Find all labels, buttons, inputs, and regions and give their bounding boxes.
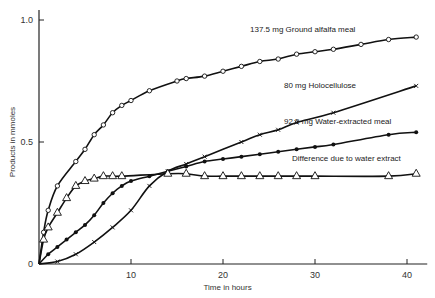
y-axis-label: Products in mmoles (8, 107, 17, 177)
x-marker (92, 240, 96, 244)
filled-circle-marker (258, 152, 262, 156)
series-x (39, 84, 418, 264)
open-circle-marker (129, 98, 133, 102)
filled-circle-marker (331, 142, 335, 146)
filled-circle-marker (276, 150, 280, 154)
filled-circle-marker (101, 201, 105, 205)
series-line (39, 132, 416, 264)
open-circle-marker (414, 35, 418, 39)
series-label: 137.5 mg Ground alfalfa meal (250, 25, 356, 34)
y-tick-label: 0.5 (20, 137, 33, 147)
filled-circle-marker (129, 179, 133, 183)
series-open-triangle (39, 169, 420, 264)
triangle-marker (99, 172, 107, 179)
filled-circle-marker (414, 130, 418, 134)
open-circle-marker (147, 89, 151, 93)
x-axis-label: Time in hours (204, 283, 252, 292)
filled-circle-marker (120, 184, 124, 188)
open-circle-marker (120, 103, 124, 107)
series-label: 80 mg Holocellulose (284, 81, 357, 90)
filled-circle-marker (65, 238, 69, 242)
series-line (39, 173, 416, 264)
filled-circle-marker (184, 164, 188, 168)
filled-circle-marker (92, 213, 96, 217)
filled-circle-marker (55, 245, 59, 249)
y-tick-label: 1.0 (20, 15, 33, 25)
open-circle-marker (294, 52, 298, 56)
triangle-marker (412, 169, 420, 176)
x-marker (147, 184, 151, 188)
series-line (39, 37, 416, 264)
x-tick-label: 30 (310, 270, 320, 280)
triangle-marker (118, 172, 126, 179)
open-circle-marker (276, 57, 280, 61)
filled-circle-marker (313, 145, 317, 149)
x-tick-label: 10 (126, 270, 136, 280)
triangle-marker (293, 172, 301, 179)
triangle-marker (274, 172, 282, 179)
x-tick-label: 20 (218, 270, 228, 280)
triangle-marker (40, 235, 48, 242)
filled-circle-marker (203, 160, 207, 164)
series-group (39, 35, 420, 264)
open-circle-marker (101, 123, 105, 127)
line-chart: 1020304000.51.0Time in hoursProducts in … (0, 0, 435, 298)
open-circle-marker (313, 50, 317, 54)
y-tick-label: 0 (28, 259, 33, 269)
open-circle-marker (83, 147, 87, 151)
series-labels: 137.5 mg Ground alfalfa meal80 mg Holoce… (250, 25, 402, 163)
open-circle-marker (184, 76, 188, 80)
open-circle-marker (386, 37, 390, 41)
series-line (39, 86, 416, 264)
filled-circle-marker (111, 191, 115, 195)
series-label: 92.5 mg Water-extracted meal (284, 117, 392, 126)
triangle-marker (256, 172, 264, 179)
filled-circle-marker (74, 230, 78, 234)
open-circle-marker (221, 69, 225, 73)
filled-circle-marker (221, 157, 225, 161)
open-circle-marker (331, 47, 335, 51)
filled-circle-marker (295, 147, 299, 151)
open-circle-marker (258, 59, 262, 63)
filled-circle-marker (83, 223, 87, 227)
triangle-marker (109, 172, 117, 179)
open-circle-marker (92, 132, 96, 136)
open-circle-marker (55, 184, 59, 188)
triangle-marker (182, 169, 190, 176)
x-marker (111, 225, 115, 229)
triangle-marker (219, 172, 227, 179)
open-circle-marker (46, 208, 50, 212)
open-circle-marker (74, 159, 78, 163)
open-circle-marker (359, 42, 363, 46)
triangle-marker (311, 172, 319, 179)
series-open-circle (39, 35, 418, 264)
filled-circle-marker (239, 155, 243, 159)
triangle-marker (237, 172, 245, 179)
triangle-marker (385, 172, 393, 179)
series-label: Difference due to water extract (292, 154, 402, 163)
triangle-marker (72, 181, 80, 188)
open-circle-marker (239, 64, 243, 68)
open-circle-marker (175, 79, 179, 83)
x-tick-label: 40 (402, 270, 412, 280)
x-marker (129, 208, 133, 212)
filled-circle-marker (387, 133, 391, 137)
open-circle-marker (202, 74, 206, 78)
open-circle-marker (110, 111, 114, 115)
filled-circle-marker (46, 252, 50, 256)
